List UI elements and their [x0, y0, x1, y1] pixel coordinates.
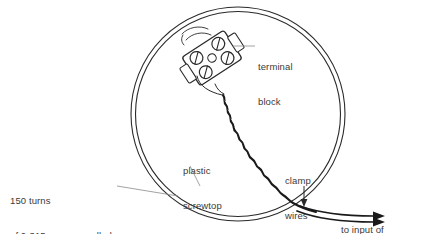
label-audio-amplifier-line1: to input of	[341, 224, 406, 234]
label-clamp-wires: clamp wires here	[285, 152, 311, 234]
label-coil-spec: 150 turns of 0·315 mm enamelled copper w…	[10, 172, 112, 234]
label-coil-spec-line2: of 0·315 mm enamelled	[10, 230, 112, 235]
label-terminal-block-line1: terminal	[258, 61, 293, 73]
label-coil-spec-line1: 150 turns	[10, 195, 112, 207]
label-plastic-screwtop-line2: screwtop	[183, 200, 222, 212]
leader-coil-spec	[117, 186, 178, 196]
diagram-canvas: terminal block plastic screwtop clamp wi…	[0, 0, 430, 234]
label-plastic-screwtop-line1: plastic	[183, 165, 222, 177]
terminal-block-body	[175, 26, 249, 90]
label-terminal-block-line2: block	[258, 96, 293, 108]
label-clamp-wires-line2: wires	[285, 210, 311, 222]
label-plastic-screwtop: plastic screwtop	[183, 142, 222, 234]
label-audio-amplifier: to input of Audio Amplifier	[341, 201, 406, 234]
label-terminal-block: terminal block	[258, 38, 293, 130]
label-clamp-wires-line1: clamp	[285, 175, 311, 187]
